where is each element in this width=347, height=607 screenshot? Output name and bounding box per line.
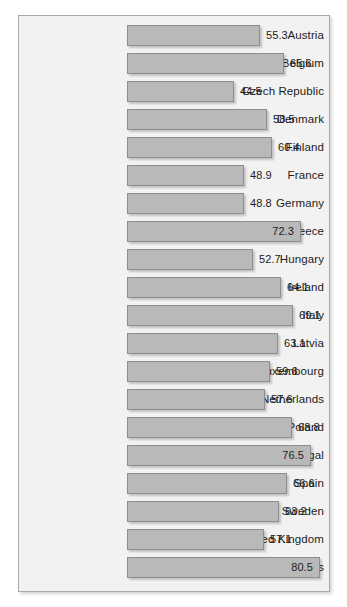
bar <box>127 501 279 522</box>
bar-area: 48.9 <box>127 165 331 186</box>
bar-area: 80.5 <box>127 557 331 578</box>
bar-value-label: 65.6 <box>290 53 312 74</box>
bar <box>127 193 244 214</box>
bar-value-label: 68.8 <box>298 417 320 438</box>
bar-row: Portugal76.5 <box>19 445 329 473</box>
bar-value-label: 76.5 <box>127 445 304 466</box>
bar-row: United Kingdom57.1 <box>19 529 329 557</box>
bar-chart-rows: Austria55.3Belgium65.6Czech Republic44.5… <box>19 16 329 585</box>
bar-area: 68.8 <box>127 417 331 438</box>
bar <box>127 361 270 382</box>
bar-area: 63.1 <box>127 333 331 354</box>
bar-value-label: 63.1 <box>284 333 306 354</box>
bar-area: 66.6 <box>127 473 331 494</box>
bar-value-label: 57.1 <box>270 529 292 550</box>
bar-area: 59.6 <box>127 361 331 382</box>
bar-value-label: 72.3 <box>127 221 294 242</box>
bar-row: France48.9 <box>19 165 329 193</box>
bar-value-label: 64.1 <box>287 277 309 298</box>
bar-value-label: 52.7 <box>259 249 281 270</box>
bar-area: 69.1 <box>127 305 331 326</box>
bar <box>127 165 244 186</box>
bar-row: Spain66.6 <box>19 473 329 501</box>
bar <box>127 81 234 102</box>
bar-value-label: 59.6 <box>276 361 298 382</box>
bar-area: 76.5 <box>127 445 331 466</box>
bar-row: Belgium65.6 <box>19 53 329 81</box>
bar-value-label: 44.5 <box>240 81 262 102</box>
bar-area: 63.2 <box>127 501 331 522</box>
bar <box>127 389 265 410</box>
bar-row: Czech Republic44.5 <box>19 81 329 109</box>
bar <box>127 137 272 158</box>
bar-row: Greece72.3 <box>19 221 329 249</box>
bar-row: Luxembourg59.6 <box>19 361 329 389</box>
bar <box>127 277 281 298</box>
bar-value-label: 48.9 <box>250 165 272 186</box>
bar-row: Italy69.1 <box>19 305 329 333</box>
bar-area: 57.6 <box>127 389 331 410</box>
bar-area: 57.1 <box>127 529 331 550</box>
bar-row: Denmark58.5 <box>19 109 329 137</box>
bar <box>127 417 292 438</box>
bar <box>127 25 260 46</box>
bar-row: United States80.5 <box>19 557 329 585</box>
bar <box>127 473 287 494</box>
bar-area: 65.6 <box>127 53 331 74</box>
bar <box>127 249 253 270</box>
bar <box>127 53 284 74</box>
bar-value-label: 63.2 <box>285 501 307 522</box>
bar-area: 58.5 <box>127 109 331 130</box>
bar-row: Austria55.3 <box>19 25 329 53</box>
bar-area: 72.3 <box>127 221 331 242</box>
bar-value-label: 57.6 <box>271 389 293 410</box>
bar-value-label: 55.3 <box>266 25 288 46</box>
bar-row: Ireland64.1 <box>19 277 329 305</box>
bar-area: 48.8 <box>127 193 331 214</box>
bar-value-label: 69.1 <box>299 305 321 326</box>
bar-row: Netherlands57.6 <box>19 389 329 417</box>
bar <box>127 333 278 354</box>
bar-row: Germany48.8 <box>19 193 329 221</box>
bar-row: Poland68.8 <box>19 417 329 445</box>
bar <box>127 529 264 550</box>
bar-value-label: 80.5 <box>127 557 313 578</box>
bar-row: Hungary52.7 <box>19 249 329 277</box>
bar-area: 55.3 <box>127 25 331 46</box>
bar-area: 52.7 <box>127 249 331 270</box>
bar-value-label: 58.5 <box>273 109 295 130</box>
bar-value-label: 48.8 <box>250 193 272 214</box>
bar-area: 64.1 <box>127 277 331 298</box>
bar <box>127 109 267 130</box>
bar <box>127 305 293 326</box>
bar-area: 60.4 <box>127 137 331 158</box>
bar-row: Finland60.4 <box>19 137 329 165</box>
bar-value-label: 66.6 <box>293 473 315 494</box>
bar-row: Latvia63.1 <box>19 333 329 361</box>
chart-frame: Austria55.3Belgium65.6Czech Republic44.5… <box>18 15 330 592</box>
bar-row: Sweden63.2 <box>19 501 329 529</box>
bar-value-label: 60.4 <box>278 137 300 158</box>
bar-area: 44.5 <box>127 81 331 102</box>
